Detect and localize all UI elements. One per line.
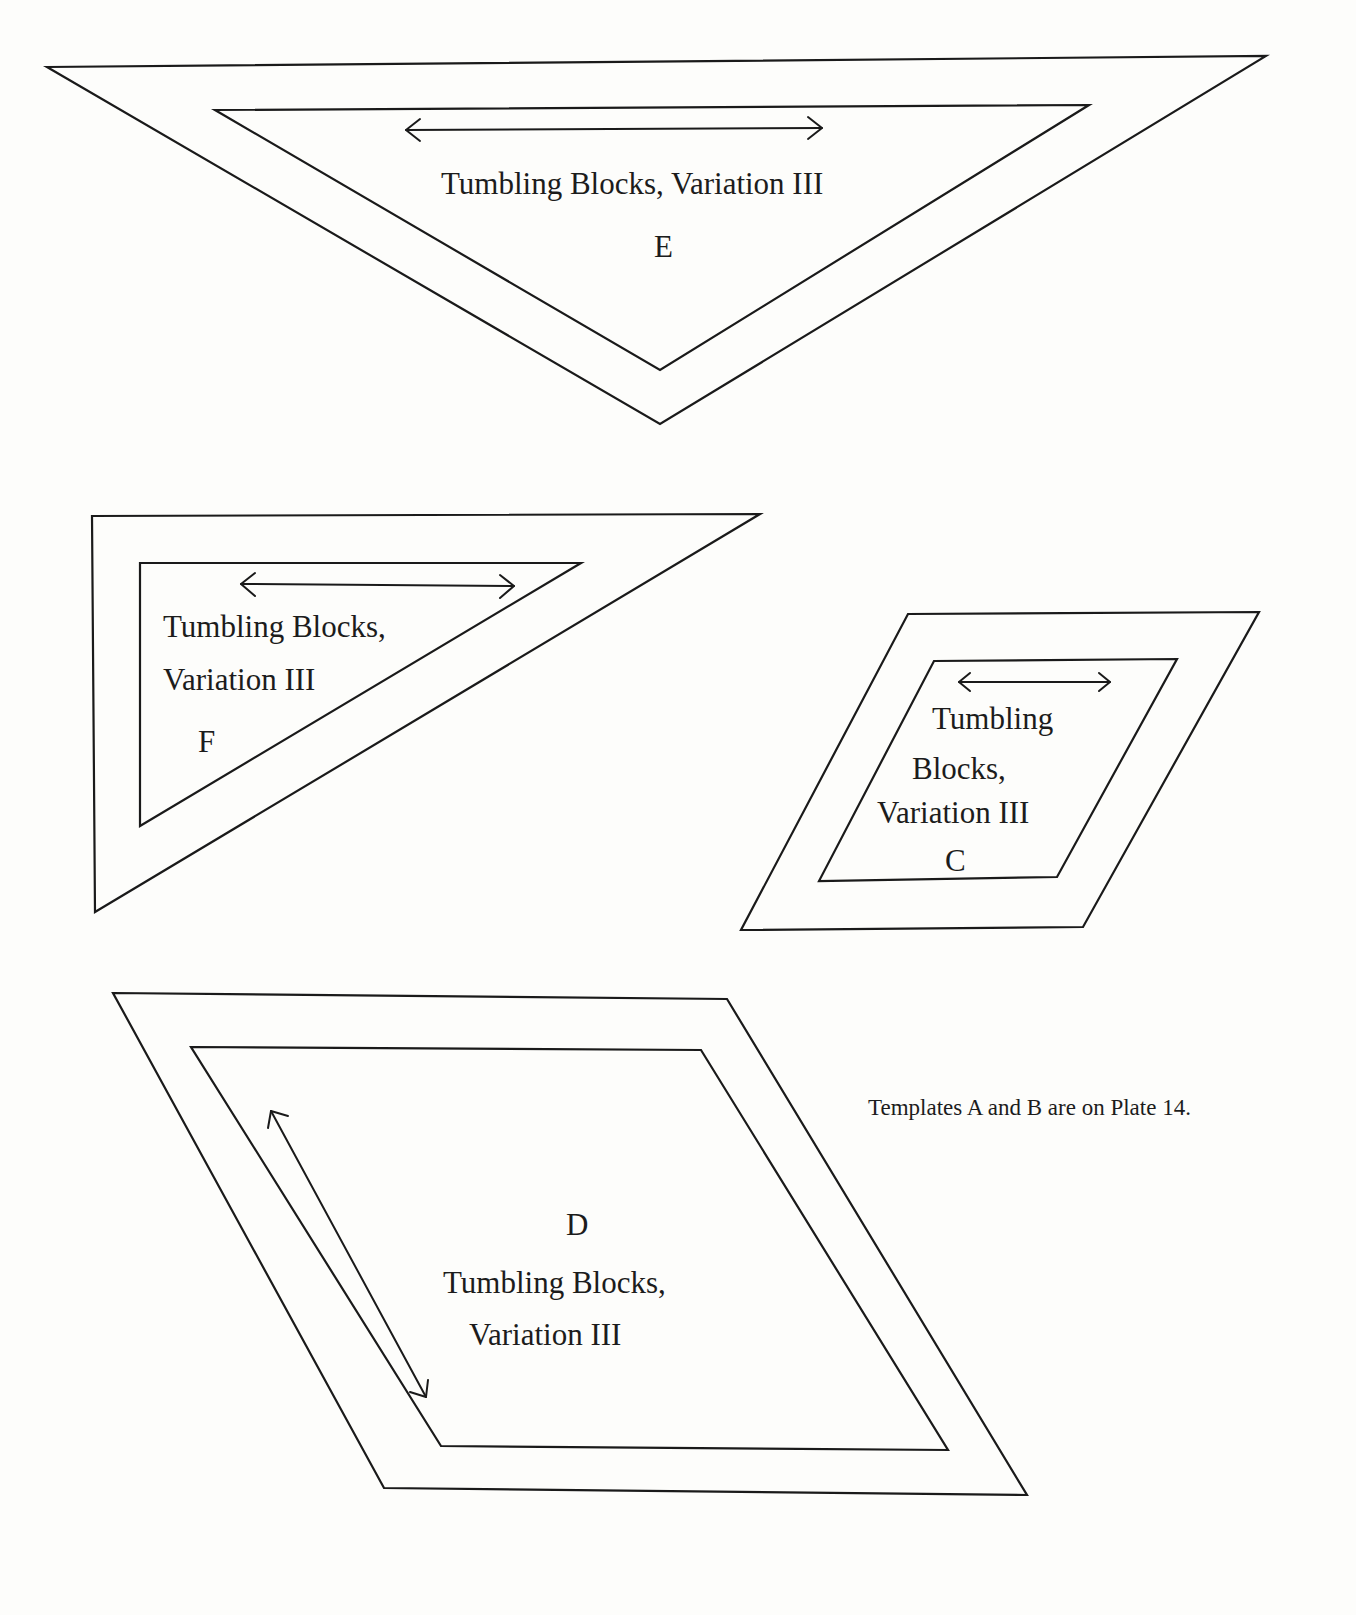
template-drawing-canvas <box>0 0 1356 1615</box>
template-f-title-line2: Variation III <box>163 664 315 695</box>
template-c-grain-arrow-icon <box>959 673 1110 691</box>
template-f <box>92 514 760 912</box>
template-d-grain-arrow-icon <box>268 1111 428 1397</box>
template-d <box>113 993 1027 1495</box>
template-c-title-line1: Tumbling <box>932 703 1053 734</box>
template-f-title-line1: Tumbling Blocks, <box>163 611 386 642</box>
template-e-title: Tumbling Blocks, Variation III <box>441 168 823 199</box>
template-f-outer-outline <box>92 514 760 912</box>
template-f-grain-arrow-icon <box>241 573 514 598</box>
template-e-inner-outline <box>215 105 1089 370</box>
template-e-letter: E <box>654 231 673 262</box>
template-f-letter: F <box>198 726 215 757</box>
template-d-outer-outline <box>113 993 1027 1495</box>
template-c-title-line3: Variation III <box>877 797 1029 828</box>
template-d-title-line2: Variation III <box>469 1319 621 1350</box>
template-c-title-line2: Blocks, <box>912 753 1006 784</box>
template-d-title-line1: Tumbling Blocks, <box>443 1267 666 1298</box>
plate-reference-note: Templates A and B are on Plate 14. <box>868 1096 1191 1119</box>
template-d-letter: D <box>566 1209 588 1240</box>
template-e-grain-arrow-icon <box>406 117 822 141</box>
template-d-inner-outline <box>191 1047 948 1450</box>
template-c-letter: C <box>945 845 966 876</box>
